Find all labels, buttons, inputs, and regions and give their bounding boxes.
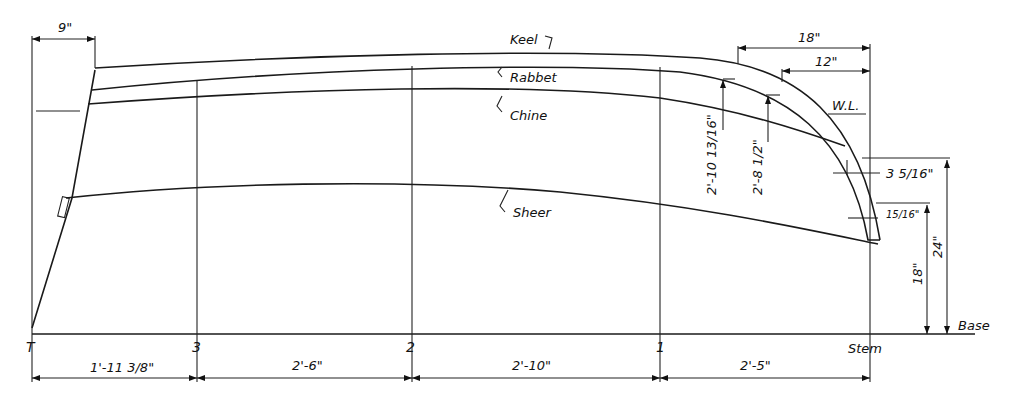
stem-12-label: 12" [815, 54, 838, 69]
station-label-3: 3 [192, 339, 201, 355]
chine-label: Chine [510, 108, 547, 123]
rabbet-label: Rabbet [510, 70, 558, 85]
rabbet-leader [498, 67, 502, 77]
chine-leader [497, 96, 502, 112]
transom-rake-label: 9" [58, 20, 72, 35]
station-label-2: 2 [406, 339, 415, 355]
stem-thickness-lower-label: 15/16" [886, 209, 919, 220]
station-label-t: T [26, 339, 36, 355]
height-24-label: 24" [930, 235, 945, 258]
height-18-label: 18" [910, 262, 925, 285]
stem-thickness-upper-label: 3 5/16" [886, 166, 934, 181]
sheer-leader [500, 190, 508, 212]
sheer-label: Sheer [513, 205, 552, 220]
spacing-label-1-stem: 2'-5" [740, 358, 771, 373]
waterline-label: W.L. [832, 98, 859, 113]
keel-label: Keel [510, 32, 538, 47]
chine-curve [88, 89, 845, 146]
stem-18-label: 18" [798, 30, 821, 45]
keel-leader [545, 36, 552, 49]
rabbet-height-a-label: 2'-10 13/16" [704, 114, 719, 195]
rabbet-height-b-label: 2'-8 1/2" [750, 139, 765, 195]
base-label: Base [958, 318, 990, 333]
boat-lines-drawing: Keel Rabbet Chine Sheer 9" 18" 12" W.L. … [0, 0, 1012, 397]
spacing-label-3-2: 2'-6" [292, 358, 323, 373]
transom-line [32, 70, 95, 328]
spacing-label-2-1: 2'-10" [512, 358, 551, 373]
spacing-label-t-3: 1'-11 3/8" [90, 360, 154, 375]
station-label-1: 1 [656, 339, 665, 355]
station-label-stem: Stem [848, 341, 882, 356]
